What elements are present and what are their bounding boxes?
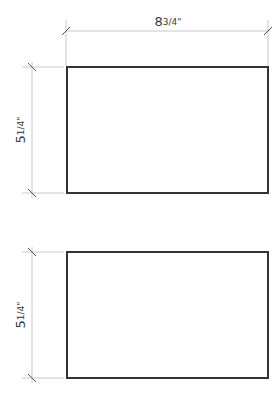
upper-rectangle: [67, 67, 268, 193]
lower-rectangle: [67, 252, 268, 378]
height-label: 51/4": [13, 117, 28, 144]
top-width-dimension: 83/4": [62, 14, 272, 66]
height-label: 51/4": [13, 302, 28, 329]
width-label: 83/4": [155, 14, 182, 29]
upper-panel: 51/4": [13, 62, 268, 198]
dimension-diagram: 83/4" 51/4" 51/4": [0, 0, 278, 402]
lower-panel: 51/4": [13, 247, 268, 383]
